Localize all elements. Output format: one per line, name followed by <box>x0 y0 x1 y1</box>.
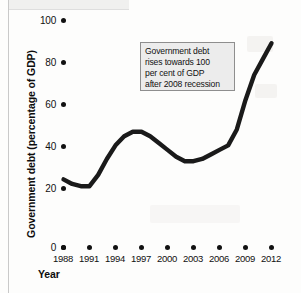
x-tick-dot-1994 <box>113 245 118 250</box>
chart-page: Government debt (percentage of GDP) 100 … <box>0 0 301 293</box>
x-tick-dot-1997 <box>139 245 144 250</box>
x-tick-dot-2000 <box>165 245 170 250</box>
annotation-line-3: per cent of GDP <box>145 68 234 79</box>
x-axis-label: Year <box>38 268 60 280</box>
annotation-line-2: rises towards 100 <box>145 57 234 68</box>
x-tick-dot-2006 <box>217 245 222 250</box>
x-tick-dot-1991 <box>87 245 92 250</box>
x-tick-dot-2009 <box>243 245 248 250</box>
x-tick-dot-2012 <box>269 245 274 250</box>
line-chart-plot: Government debt (percentage of GDP) 100 … <box>0 0 301 293</box>
x-tick-dot-1988 <box>61 245 66 250</box>
x-tick-label-2012: 2012 <box>255 253 287 264</box>
annotation-line-1: Government debt <box>145 46 234 57</box>
recession-annotation-box: Government debt rises towards 100 per ce… <box>140 42 235 91</box>
annotation-line-4: after 2008 recession <box>145 79 234 90</box>
x-tick-dot-2003 <box>191 245 196 250</box>
